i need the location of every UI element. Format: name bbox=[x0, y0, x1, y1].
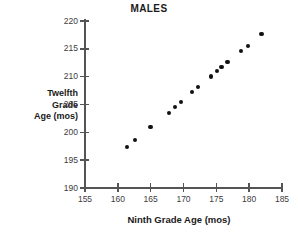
x-tick-label: 185 bbox=[269, 194, 295, 204]
data-point bbox=[215, 69, 219, 73]
y-tick-mark bbox=[80, 132, 89, 134]
y-tick-mark bbox=[80, 20, 89, 22]
y-tick-label: 210 bbox=[54, 72, 78, 81]
x-tick-label: 170 bbox=[171, 194, 197, 204]
x-tick-label: 180 bbox=[236, 194, 262, 204]
y-tick-label: 205 bbox=[54, 100, 78, 109]
x-axis-title: Ninth Grade Age (mos) bbox=[60, 214, 298, 225]
y-tick-label: 200 bbox=[54, 128, 78, 137]
data-point bbox=[239, 49, 243, 53]
x-tick-mark bbox=[150, 183, 152, 192]
data-point bbox=[259, 32, 263, 36]
y-tick-mark bbox=[80, 159, 89, 161]
y-tick-mark bbox=[80, 104, 89, 106]
x-tick-label: 175 bbox=[203, 194, 229, 204]
y-tick-label: 215 bbox=[54, 44, 78, 53]
y-tick-label: 220 bbox=[54, 17, 78, 26]
x-tick-mark bbox=[183, 183, 185, 192]
data-point bbox=[179, 100, 183, 104]
x-tick-mark bbox=[117, 183, 119, 192]
data-point bbox=[246, 44, 250, 48]
data-point bbox=[125, 145, 129, 149]
x-tick-label: 165 bbox=[138, 194, 164, 204]
data-point bbox=[196, 85, 200, 89]
data-point bbox=[225, 60, 229, 64]
y-tick-label: 190 bbox=[54, 184, 78, 193]
y-tick-label: 195 bbox=[54, 156, 78, 165]
x-tick-label: 155 bbox=[72, 194, 98, 204]
x-tick-mark bbox=[216, 183, 218, 192]
y-tick-mark bbox=[80, 76, 89, 78]
data-point bbox=[190, 90, 194, 94]
data-point bbox=[173, 105, 177, 109]
y-axis-title-line-1: Twelfth bbox=[2, 88, 78, 100]
data-point bbox=[148, 125, 152, 129]
data-point bbox=[219, 65, 223, 69]
x-tick-mark bbox=[281, 183, 283, 192]
y-tick-mark bbox=[80, 48, 89, 50]
x-tick-mark bbox=[84, 183, 86, 192]
chart-title: MALES bbox=[0, 3, 298, 14]
data-point bbox=[133, 138, 137, 142]
y-axis-title-line-3: Age (mos) bbox=[2, 111, 78, 123]
x-tick-label: 160 bbox=[105, 194, 131, 204]
scatter-chart: MALES Twelfth Grade Age (mos) Ninth Grad… bbox=[0, 0, 298, 233]
data-point bbox=[167, 111, 171, 115]
plot-area bbox=[85, 21, 282, 188]
data-point bbox=[209, 74, 213, 78]
x-tick-mark bbox=[248, 183, 250, 192]
